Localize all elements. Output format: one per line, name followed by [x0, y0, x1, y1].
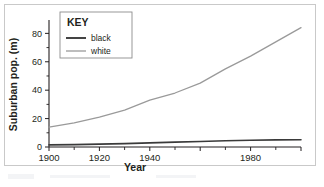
- legend-label-white: white: [90, 46, 111, 56]
- legend-label-black: black: [91, 33, 112, 43]
- legend-title: KEY: [67, 16, 89, 28]
- y-tick-label: 20: [32, 114, 42, 124]
- series-line-black: [49, 140, 301, 145]
- page-artifact-strip: [6, 172, 306, 182]
- y-tick-label: 0: [37, 142, 42, 152]
- x-tick-label: 1900: [38, 152, 59, 163]
- y-tick-label: 80: [32, 29, 42, 39]
- artifact-block: [8, 174, 34, 179]
- x-tick-label: 1920: [89, 152, 110, 163]
- chart-figure: 0204060801900192019401980Suburban pop. (…: [0, 0, 324, 187]
- chart-canvas: 0204060801900192019401980Suburban pop. (…: [0, 0, 324, 187]
- x-tick-label: 1980: [240, 152, 261, 163]
- y-tick-label: 60: [32, 57, 42, 67]
- artifact-block: [156, 175, 196, 178]
- y-tick-label: 40: [32, 85, 42, 95]
- y-axis-title: Suburban pop. (m): [7, 38, 19, 131]
- artifact-block: [50, 175, 110, 178]
- line-chart-svg: 0204060801900192019401980Suburban pop. (…: [0, 0, 324, 187]
